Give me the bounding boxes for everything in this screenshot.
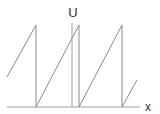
- sawtooth-diagram: U x: [0, 0, 160, 114]
- x-axis-label: x: [145, 100, 151, 114]
- y-axis-label: U: [68, 5, 77, 20]
